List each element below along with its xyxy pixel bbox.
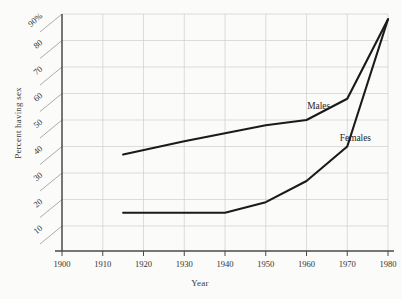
x-tick-labels: 190019101920193019401950196019701980	[53, 259, 396, 269]
x-tick-label: 1910	[94, 259, 111, 269]
series-inline-labels: MalesFemales	[307, 101, 371, 143]
y-tick-leader	[40, 173, 62, 191]
series-label-males: Males	[307, 101, 330, 111]
x-tick-label: 1950	[257, 259, 274, 269]
y-tick-label: 10	[31, 223, 44, 236]
y-tick-leader	[40, 94, 62, 112]
series-line-females	[123, 19, 388, 212]
x-tick-label: 1920	[135, 259, 152, 269]
line-chart: 190019101920193019401950196019701980 102…	[0, 0, 402, 299]
y-tick-label: 40	[31, 143, 44, 156]
y-tick-label: 20	[31, 196, 44, 209]
tick-leaders	[40, 14, 62, 244]
series-paths	[123, 19, 388, 212]
y-tick-labels: 102030405060708090%	[26, 11, 45, 236]
y-tick-label: 30	[31, 170, 44, 183]
x-tick-label: 1970	[339, 259, 356, 269]
y-tick-label: 90%	[26, 11, 45, 29]
x-tick-label: 1930	[176, 259, 193, 269]
x-tick-label: 1940	[216, 259, 233, 269]
y-tick-leader	[40, 14, 62, 32]
y-tick-leader	[40, 200, 62, 218]
y-tick-label: 70	[31, 64, 44, 77]
series-label-females: Females	[340, 133, 372, 143]
y-tick-label: 50	[31, 117, 44, 130]
y-tick-leader	[40, 120, 62, 138]
y-tick-leader	[40, 41, 62, 59]
y-tick-leader	[40, 147, 62, 165]
x-axis-title: Year	[191, 278, 208, 288]
y-tick-label: 60	[31, 90, 44, 103]
x-tick-label: 1900	[53, 259, 70, 269]
y-tick-leader	[40, 226, 62, 244]
y-tick-leader	[40, 67, 62, 85]
x-tick-label: 1980	[379, 259, 396, 269]
y-axis-title: Percent having sex	[13, 75, 23, 171]
x-tick-label: 1960	[298, 259, 315, 269]
chart-figure: 190019101920193019401950196019701980 102…	[0, 0, 402, 299]
y-tick-label: 80	[31, 37, 44, 50]
